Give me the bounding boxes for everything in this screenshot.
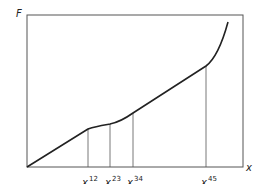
- tick-label-x23: x23: [105, 173, 121, 184]
- tick-label-x45: x45: [201, 173, 217, 184]
- tick-sup: 23: [112, 175, 121, 183]
- tick-base: x: [201, 177, 207, 184]
- tick-base: x: [127, 177, 133, 184]
- tick-base: x: [82, 177, 88, 184]
- tick-label-x34: x34: [127, 173, 143, 184]
- tick-sup: 34: [134, 175, 143, 183]
- tick-sup: 45: [208, 175, 217, 183]
- tick-label-x12: x12: [82, 173, 98, 184]
- y-axis-label: F: [16, 9, 22, 19]
- x-axis-label: x: [246, 163, 252, 173]
- plot-frame: [27, 15, 243, 167]
- force-curve: [27, 22, 228, 167]
- tick-sup: 12: [89, 175, 98, 183]
- force-displacement-diagram: [0, 0, 261, 184]
- tick-base: x: [105, 177, 111, 184]
